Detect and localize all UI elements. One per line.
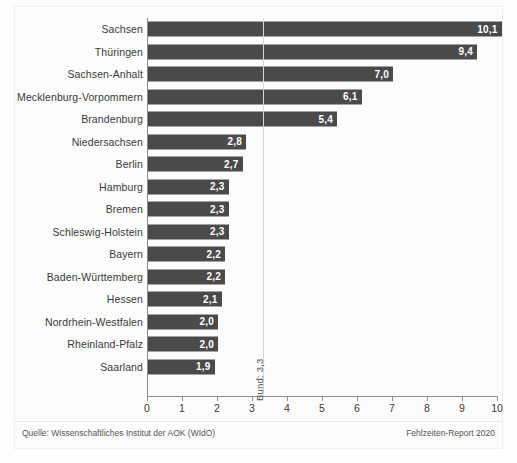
x-axis-tick — [392, 396, 393, 401]
x-axis-tick — [322, 396, 323, 401]
bar-row: Hamburg2,3 — [0, 176, 517, 199]
x-axis-tick-label: 8 — [424, 402, 430, 414]
category-label: Mecklenburg-Vorpommern — [17, 91, 143, 103]
bund-reference-line — [263, 18, 264, 396]
footer-divider — [15, 421, 502, 422]
x-axis-tick — [252, 396, 253, 401]
x-axis-tick — [287, 396, 288, 401]
bar-value-label: 2,8 — [227, 136, 242, 147]
bar-row: Schleswig-Holstein2,3 — [0, 221, 517, 244]
x-axis-tick-label: 2 — [214, 402, 220, 414]
bar-row: Sachsen-Anhalt7,0 — [0, 63, 517, 86]
bar-row: Niedersachsen2,8 — [0, 131, 517, 154]
bar-value-label: 2,7 — [224, 159, 239, 170]
bar: 9,4 — [148, 44, 477, 59]
bar-row: Nordrhein-Westfalen2,0 — [0, 311, 517, 334]
bar-row: Brandenburg5,4 — [0, 108, 517, 131]
source-note: Quelle: Wissenschaftliches Institut der … — [22, 428, 215, 438]
x-axis-tick-label: 0 — [144, 402, 150, 414]
bar-value-label: 1,9 — [196, 361, 211, 372]
category-label: Hamburg — [99, 181, 143, 193]
bar: 6,1 — [148, 89, 362, 104]
category-label: Hessen — [107, 293, 143, 305]
category-label: Sachsen — [101, 23, 143, 35]
bar: 5,4 — [148, 112, 337, 127]
bar: 2,8 — [148, 134, 246, 149]
bar-row: Sachsen10,1 — [0, 18, 517, 41]
bar: 10,1 — [148, 22, 502, 37]
bar-value-label: 10,1 — [477, 24, 497, 35]
category-label: Brandenburg — [81, 113, 143, 125]
category-label: Bayern — [109, 248, 143, 260]
x-axis-tick-label: 1 — [179, 402, 185, 414]
plot-area: Sachsen10,1Thüringen9,4Sachsen-Anhalt7,0… — [0, 0, 517, 463]
x-axis-tick-label: 9 — [459, 402, 465, 414]
bar-row: Bayern2,2 — [0, 243, 517, 266]
x-axis-tick — [427, 396, 428, 401]
figure-container: Sachsen10,1Thüringen9,4Sachsen-Anhalt7,0… — [0, 0, 517, 463]
bar-value-label: 2,1 — [203, 294, 218, 305]
bar: 2,2 — [148, 269, 225, 284]
category-label: Nordrhein-Westfalen — [45, 316, 143, 328]
bar: 2,0 — [148, 337, 218, 352]
category-label: Niedersachsen — [72, 136, 143, 148]
bar: 2,3 — [148, 202, 229, 217]
category-label: Sachsen-Anhalt — [67, 68, 143, 80]
bar-row: Rheinland-Pfalz2,0 — [0, 333, 517, 356]
x-axis-tick — [147, 396, 148, 401]
bar-value-label: 2,0 — [199, 339, 214, 350]
x-axis-tick-label: 7 — [389, 402, 395, 414]
category-label: Thüringen — [95, 46, 143, 58]
bund-reference-label: Bund: 3,3 — [254, 359, 265, 401]
x-axis-tick — [357, 396, 358, 401]
bar: 7,0 — [148, 67, 393, 82]
category-label: Schleswig-Holstein — [52, 226, 143, 238]
bar-value-label: 2,0 — [199, 316, 214, 327]
report-note: Fehlzeiten-Report 2020 — [406, 428, 495, 438]
bar-value-label: 2,3 — [210, 226, 225, 237]
x-axis-tick — [217, 396, 218, 401]
x-axis-tick-label: 6 — [354, 402, 360, 414]
bar: 1,9 — [148, 359, 215, 374]
bar: 2,1 — [148, 292, 222, 307]
bar-row: Berlin2,7 — [0, 153, 517, 176]
bar-value-label: 7,0 — [374, 69, 389, 80]
category-label: Berlin — [116, 158, 143, 170]
bar-row: Baden-Württemberg2,2 — [0, 266, 517, 289]
bar: 2,3 — [148, 224, 229, 239]
bar: 2,3 — [148, 179, 229, 194]
bar-row: Bremen2,3 — [0, 198, 517, 221]
x-axis-tick — [182, 396, 183, 401]
x-axis-tick-label: 10 — [491, 402, 503, 414]
x-axis-tick-label: 3 — [249, 402, 255, 414]
bar-row: Thüringen9,4 — [0, 41, 517, 64]
bar-value-label: 6,1 — [343, 91, 358, 102]
category-label: Bremen — [106, 203, 143, 215]
bar: 2,2 — [148, 247, 225, 262]
bar-value-label: 5,4 — [318, 114, 333, 125]
bar: 2,7 — [148, 157, 243, 172]
category-label: Baden-Württemberg — [47, 271, 143, 283]
bar-value-label: 2,2 — [206, 249, 221, 260]
bar-value-label: 2,3 — [210, 181, 225, 192]
x-axis-tick — [462, 396, 463, 401]
x-axis-tick — [497, 396, 498, 401]
bar-row: Mecklenburg-Vorpommern6,1 — [0, 86, 517, 109]
x-axis-tick-label: 5 — [319, 402, 325, 414]
bar-row: Hessen2,1 — [0, 288, 517, 311]
category-label: Rheinland-Pfalz — [67, 338, 143, 350]
bar-value-label: 2,3 — [210, 204, 225, 215]
x-axis-tick-label: 4 — [284, 402, 290, 414]
bar-value-label: 2,2 — [206, 271, 221, 282]
bar-value-label: 9,4 — [458, 46, 473, 57]
bar: 2,0 — [148, 314, 218, 329]
category-label: Saarland — [100, 361, 143, 373]
